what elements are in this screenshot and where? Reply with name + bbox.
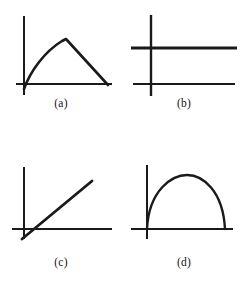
panel-c-caption: (c): [0, 255, 122, 269]
panel-b: (b): [123, 0, 245, 141]
panel-d-graph: [123, 141, 245, 254]
semicircle-d: [147, 175, 225, 229]
curve-a: [24, 39, 108, 89]
panel-d-caption: (d): [123, 255, 245, 269]
figure-container: (a) (b) (c): [0, 0, 245, 283]
panel-c: (c): [0, 141, 122, 282]
panel-c-plot: [0, 141, 122, 254]
panel-a: (a): [0, 0, 122, 141]
panel-d-plot: [123, 141, 245, 254]
panel-d: (d): [123, 141, 245, 282]
line-c: [22, 181, 92, 239]
panel-b-caption: (b): [123, 96, 245, 110]
panel-c-graph: [0, 141, 122, 254]
panel-a-caption: (a): [0, 96, 122, 110]
